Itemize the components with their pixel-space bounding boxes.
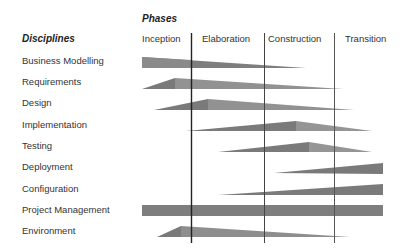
bar-project-management — [142, 205, 383, 216]
bar-business-modelling — [142, 57, 306, 68]
bar-requirements — [142, 78, 343, 89]
bar-design — [154, 99, 354, 110]
workload-chart — [0, 0, 403, 251]
bar-configuration — [218, 184, 383, 195]
bar-deployment — [274, 163, 383, 174]
bar-implementation — [186, 121, 372, 131]
bar-testing — [218, 142, 372, 152]
bar-environment — [157, 226, 350, 237]
